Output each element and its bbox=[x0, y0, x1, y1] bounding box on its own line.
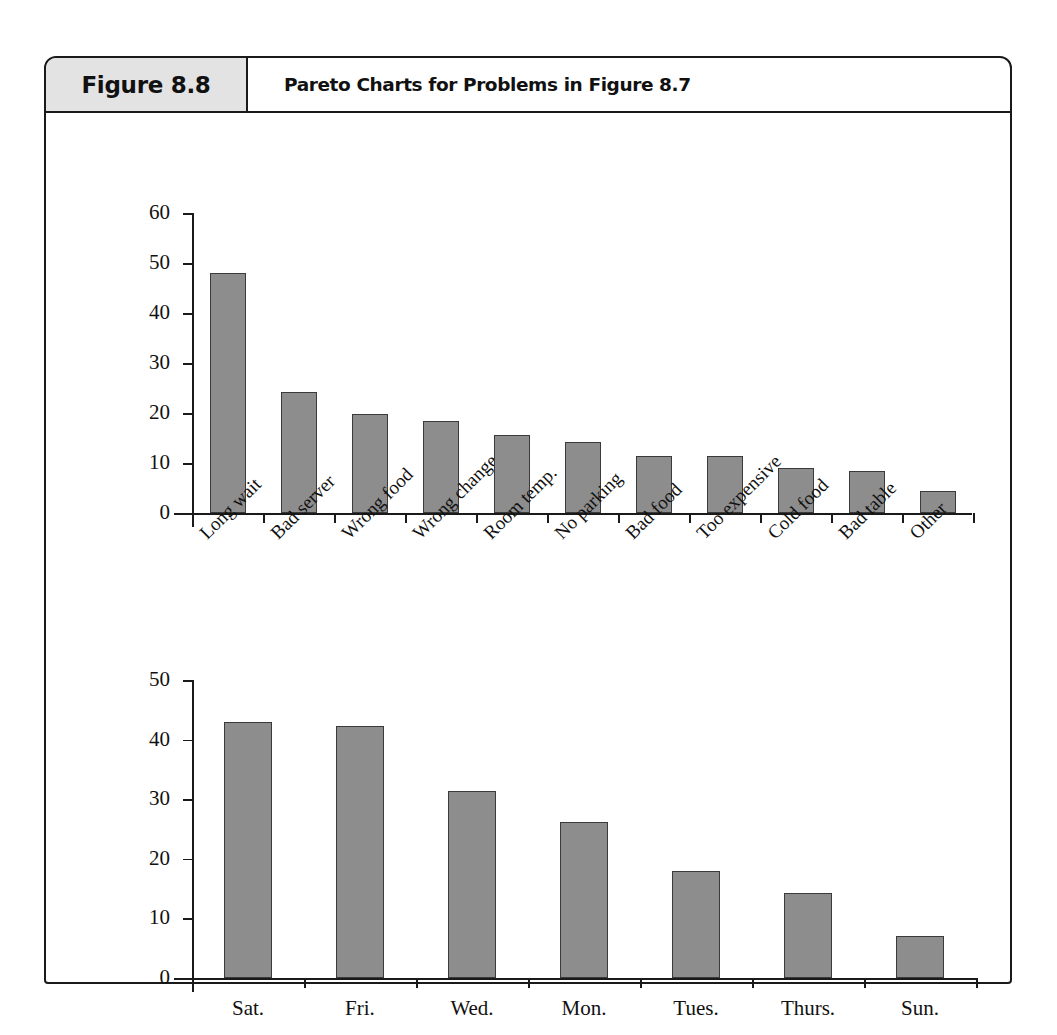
figure-frame: Figure 8.8 Pareto Charts for Problems in… bbox=[44, 56, 1012, 984]
y-axis-tick bbox=[183, 680, 192, 682]
y-axis-tick bbox=[183, 313, 192, 315]
y-axis-tick-label: 40 bbox=[130, 302, 170, 323]
x-axis-tick-label: Tues. bbox=[640, 998, 752, 1019]
y-axis-tick-label: 60 bbox=[130, 202, 170, 223]
x-axis-tick bbox=[973, 513, 975, 523]
y-axis-tick bbox=[183, 740, 192, 742]
bar bbox=[448, 791, 496, 978]
y-axis-tick-label: 10 bbox=[130, 452, 170, 473]
x-axis-tick-label: Sat. bbox=[192, 998, 304, 1019]
y-axis-tick bbox=[183, 413, 192, 415]
pareto-chart-days: 01020304050Sat.Fri.Wed.Mon.Tues.Thurs.Su… bbox=[46, 598, 1010, 980]
bar bbox=[784, 893, 832, 978]
x-axis-tick bbox=[304, 978, 306, 988]
y-axis-tick-label: 20 bbox=[130, 848, 170, 869]
x-axis-tick bbox=[864, 978, 866, 988]
x-axis-tick-label: Thurs. bbox=[752, 998, 864, 1019]
x-axis-tick bbox=[831, 513, 833, 523]
bar bbox=[560, 822, 608, 978]
figure-number-label: Figure 8.8 bbox=[46, 58, 248, 111]
x-axis-tick-label: Mon. bbox=[528, 998, 640, 1019]
y-axis-tick-label: 0 bbox=[130, 967, 170, 988]
figure-caption: Pareto Charts for Problems in Figure 8.7 bbox=[248, 58, 1010, 111]
x-axis-tick bbox=[405, 513, 407, 523]
x-axis-tick bbox=[192, 978, 194, 988]
x-axis-tick bbox=[902, 513, 904, 523]
x-axis-tick bbox=[618, 513, 620, 523]
x-axis-tick bbox=[263, 513, 265, 523]
x-axis bbox=[174, 978, 976, 980]
x-axis-tick bbox=[752, 978, 754, 988]
y-axis-tick-label: 50 bbox=[130, 252, 170, 273]
x-axis-tick bbox=[528, 978, 530, 988]
y-axis-tick bbox=[183, 263, 192, 265]
bar bbox=[336, 726, 384, 978]
x-axis-tick-label: Wed. bbox=[416, 998, 528, 1019]
y-axis-tick-label: 30 bbox=[130, 352, 170, 373]
bar bbox=[672, 871, 720, 978]
y-axis-tick-label: 30 bbox=[130, 788, 170, 809]
y-axis-tick bbox=[183, 918, 192, 920]
x-axis-tick bbox=[760, 513, 762, 523]
x-axis-tick bbox=[416, 978, 418, 988]
y-axis-tick bbox=[183, 859, 192, 861]
y-axis-tick bbox=[183, 513, 192, 515]
x-axis-tick bbox=[689, 513, 691, 523]
y-axis-tick bbox=[183, 463, 192, 465]
x-axis-tick-label: Fri. bbox=[304, 998, 416, 1019]
bar bbox=[224, 722, 272, 978]
y-axis-tick bbox=[183, 978, 192, 980]
x-axis-tick bbox=[640, 978, 642, 988]
x-axis-tick bbox=[547, 513, 549, 523]
x-axis-tick-label: Other bbox=[906, 498, 950, 542]
y-axis-tick-label: 50 bbox=[130, 669, 170, 690]
bar bbox=[210, 273, 246, 513]
x-axis-tick bbox=[192, 513, 194, 523]
figure-header: Figure 8.8 Pareto Charts for Problems in… bbox=[46, 58, 1010, 113]
y-axis-tick bbox=[183, 799, 192, 801]
y-axis-tick bbox=[183, 363, 192, 365]
y-axis-tick-label: 10 bbox=[130, 907, 170, 928]
pareto-chart-problems: 0102030405060Long waitBad serverWrong fo… bbox=[46, 120, 1010, 600]
y-axis bbox=[192, 680, 194, 992]
x-axis-tick-label: Sun. bbox=[864, 998, 976, 1019]
x-axis-tick bbox=[976, 978, 978, 988]
y-axis bbox=[192, 213, 194, 527]
y-axis-tick-label: 0 bbox=[130, 502, 170, 523]
y-axis-tick-label: 20 bbox=[130, 402, 170, 423]
y-axis-tick-label: 40 bbox=[130, 729, 170, 750]
y-axis-tick bbox=[183, 213, 192, 215]
bar bbox=[896, 936, 944, 978]
x-axis-tick bbox=[476, 513, 478, 523]
x-axis-tick bbox=[334, 513, 336, 523]
